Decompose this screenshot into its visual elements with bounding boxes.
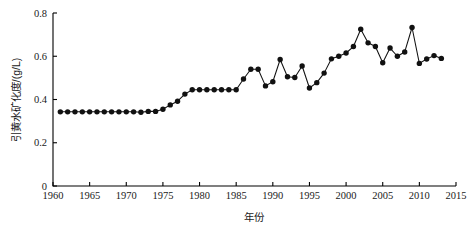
data-point xyxy=(402,49,407,54)
x-axis-ticks xyxy=(53,182,456,186)
data-point xyxy=(182,91,187,96)
data-point xyxy=(417,61,422,66)
data-point xyxy=(285,74,290,79)
y-axis-title: 引黄水矿化度/(g/L) xyxy=(10,58,22,143)
data-point xyxy=(190,87,195,92)
data-point xyxy=(146,109,151,114)
data-point xyxy=(292,75,297,80)
data-point xyxy=(233,87,238,92)
data-point xyxy=(343,50,348,55)
x-tick-label: 1975 xyxy=(152,190,173,201)
line-chart: 00.20.40.60.8 19601965197019751980198519… xyxy=(0,0,476,228)
data-point xyxy=(395,54,400,59)
x-axis-title: 年份 xyxy=(244,211,265,223)
data-series-points xyxy=(58,25,444,115)
data-point xyxy=(373,44,378,49)
x-tick-label: 1995 xyxy=(299,190,320,201)
y-tick-label: 0.6 xyxy=(34,51,47,62)
data-point xyxy=(197,87,202,92)
data-point xyxy=(94,109,99,114)
data-point xyxy=(314,80,319,85)
x-tick-label: 1985 xyxy=(226,190,247,201)
data-point xyxy=(124,109,129,114)
data-point xyxy=(72,109,77,114)
data-point xyxy=(212,87,217,92)
data-point xyxy=(358,27,363,32)
data-point xyxy=(439,56,444,61)
chart-figure: 00.20.40.60.8 19601965197019751980198519… xyxy=(0,0,476,228)
x-tick-label: 1990 xyxy=(262,190,283,201)
data-point xyxy=(387,45,392,50)
y-tick-label: 0.4 xyxy=(34,94,48,105)
data-point xyxy=(153,109,158,114)
y-axis-ticks xyxy=(53,13,57,186)
data-point xyxy=(87,109,92,114)
data-point xyxy=(365,40,370,45)
data-point xyxy=(248,67,253,72)
data-point xyxy=(116,109,121,114)
data-point xyxy=(160,107,165,112)
data-point xyxy=(270,79,275,84)
data-point xyxy=(329,56,334,61)
data-point xyxy=(58,109,63,114)
data-point xyxy=(277,57,282,62)
data-point xyxy=(431,53,436,58)
data-point xyxy=(65,109,70,114)
data-point xyxy=(336,54,341,59)
x-tick-label: 2005 xyxy=(372,190,393,201)
x-tick-label: 1980 xyxy=(189,190,210,201)
data-point xyxy=(226,87,231,92)
data-point xyxy=(255,67,260,72)
data-point xyxy=(102,109,107,114)
data-point xyxy=(263,83,268,88)
x-axis-tick-labels: 1960196519701975198019851990199520002005… xyxy=(43,190,467,201)
chart-axes xyxy=(53,13,456,186)
data-point xyxy=(321,70,326,75)
data-point xyxy=(351,44,356,49)
data-point xyxy=(138,110,143,115)
data-point xyxy=(204,87,209,92)
y-tick-label: 0.8 xyxy=(34,8,47,19)
data-point xyxy=(80,109,85,114)
data-point xyxy=(241,76,246,81)
data-point xyxy=(307,85,312,90)
data-point xyxy=(299,63,304,68)
data-point xyxy=(424,56,429,61)
x-tick-label: 2000 xyxy=(336,190,357,201)
x-tick-label: 2015 xyxy=(446,190,467,201)
x-tick-label: 1960 xyxy=(43,190,64,201)
x-tick-label: 1965 xyxy=(79,190,100,201)
data-point xyxy=(131,109,136,114)
data-point xyxy=(409,25,414,30)
data-point xyxy=(168,102,173,107)
y-axis-tick-labels: 00.20.40.60.8 xyxy=(34,8,48,192)
x-tick-label: 1970 xyxy=(116,190,137,201)
data-point xyxy=(109,109,114,114)
x-tick-label: 2010 xyxy=(409,190,430,201)
data-point xyxy=(219,87,224,92)
data-point xyxy=(175,99,180,104)
data-point xyxy=(380,60,385,65)
y-tick-label: 0.2 xyxy=(34,137,47,148)
